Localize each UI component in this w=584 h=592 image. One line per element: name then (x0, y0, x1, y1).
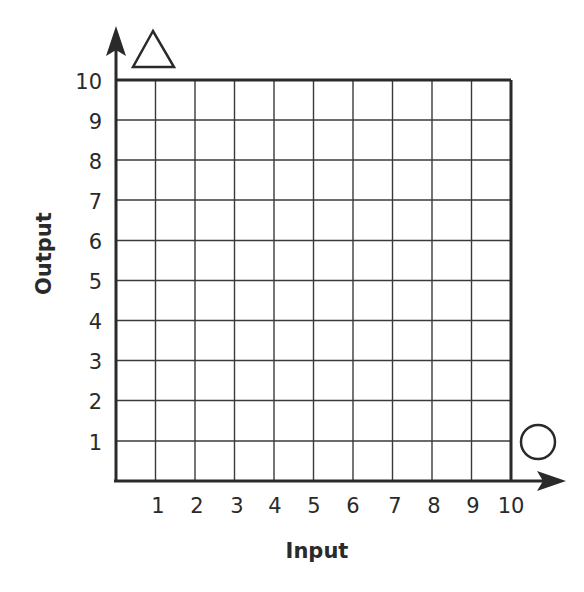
x-axis-label: Input (277, 539, 357, 563)
x-tick-6: 6 (333, 494, 373, 518)
coordinate-grid-figure: 10 9 8 7 6 5 4 3 2 1 1 2 3 4 5 6 7 8 9 1… (0, 0, 584, 592)
x-tick-1: 1 (138, 494, 178, 518)
y-tick-6: 6 (62, 230, 102, 254)
y-axis-label: Output (29, 235, 59, 295)
y-tick-7: 7 (62, 190, 102, 214)
y-tick-10: 10 (62, 70, 102, 94)
y-tick-9: 9 (62, 110, 102, 134)
y-tick-2: 2 (62, 390, 102, 414)
y-tick-8: 8 (62, 150, 102, 174)
x-tick-2: 2 (177, 494, 217, 518)
triangle-icon (133, 31, 174, 67)
x-tick-7: 7 (375, 494, 415, 518)
x-tick-3: 3 (217, 494, 257, 518)
x-tick-5: 5 (294, 494, 334, 518)
x-tick-4: 4 (255, 494, 295, 518)
y-tick-4: 4 (62, 310, 102, 334)
circle-icon (521, 425, 555, 459)
y-tick-1: 1 (62, 431, 102, 455)
y-tick-5: 5 (62, 270, 102, 294)
y-tick-3: 3 (62, 350, 102, 374)
x-tick-8: 8 (414, 494, 454, 518)
grid-lines (116, 80, 511, 481)
x-tick-9: 9 (453, 494, 493, 518)
x-tick-10: 10 (491, 494, 531, 518)
